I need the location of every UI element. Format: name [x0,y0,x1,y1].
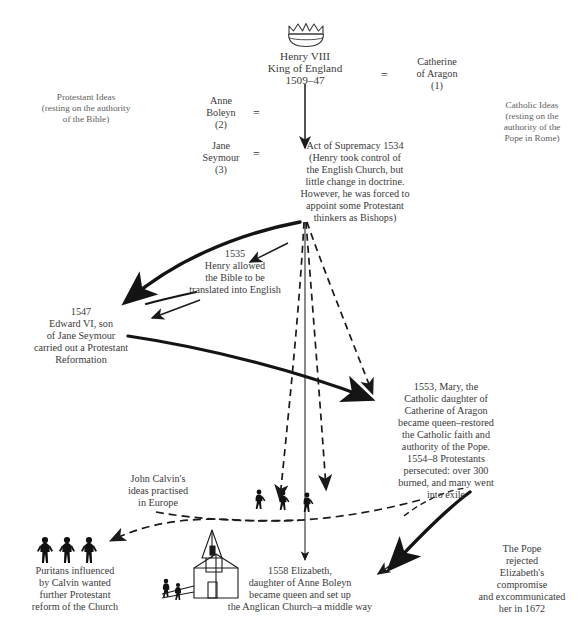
crown-icon [284,20,328,54]
wife-anne-order: (2) [188,119,254,131]
event-pope: The Pope rejected Elizabeth's compromise… [466,543,578,615]
monarch-reign: 1509–47 [245,74,365,87]
church-building-icon [160,528,252,608]
wife-jane-name: Jane Seymour [188,140,254,164]
event-act-of-supremacy: Act of Supremacy 1534 (Henry took contro… [272,140,438,224]
wife-catherine-name: Catherine of Aragon [395,56,479,80]
wife-anne-name: Anne Boleyn [188,95,254,119]
marriage-equals-catherine: = [381,68,388,83]
reformation-diagram: Henry VIII King of England 1509–47 = Cat… [0,0,580,625]
walking-people-icon [252,487,342,517]
connector-pope-to-elizabeth [392,492,470,566]
label-protestant-ideas: Protestant Ideas (resting on the authori… [12,92,160,125]
event-mary-i: 1553, Mary, the Catholic daughter of Cat… [372,381,520,501]
three-people-icon [36,536,106,568]
event-edward-vi: 1547 Edward VI, son of Jane Seymour carr… [14,306,148,366]
connector-dashed-to-elizabeth [306,222,326,488]
connector-edward-to-mary [128,336,368,398]
event-john-calvin: John Calvin's ideas practised in Europe [114,473,202,509]
connector-dashed-to-mary [307,222,372,392]
connector-into-edward-block [152,300,200,318]
label-catholic-ideas: Catholic Ideas (resting on the authority… [488,100,576,143]
marriage-equals-anne: = [253,106,260,121]
wife-jane-order: (3) [188,164,254,176]
event-bible-in-english: 1535 Henry allowed the Bible to be trans… [172,248,298,296]
event-puritans: Puritans influenced by Calvin wanted fur… [6,565,144,613]
marriage-equals-jane: = [253,147,260,162]
wife-catherine-order: (1) [395,80,479,92]
